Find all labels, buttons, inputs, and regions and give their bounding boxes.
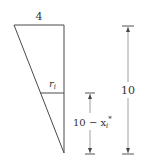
top-width-label: 4 xyxy=(36,10,43,23)
radius-label: ri xyxy=(49,78,56,91)
triangle-diagram: 4 ri 10 − xi* 10 xyxy=(0,0,146,164)
total-height-label: 10 xyxy=(121,84,135,97)
triangle-shape xyxy=(14,25,64,153)
lower-height-label: 10 − xi* xyxy=(73,115,112,130)
